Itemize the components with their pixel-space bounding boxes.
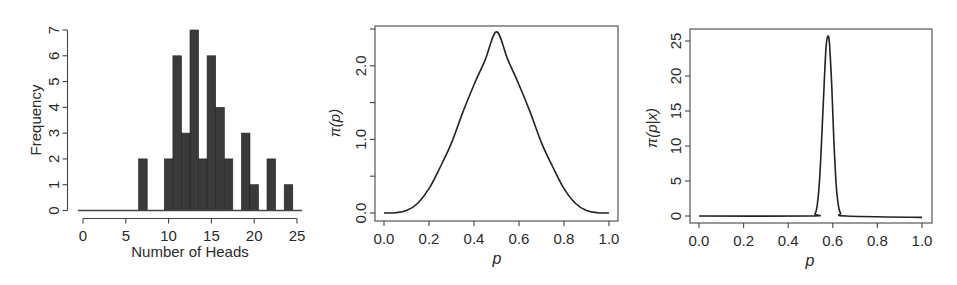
x-tick-label: 15	[203, 227, 220, 244]
x-tick-label: 10	[160, 227, 177, 244]
x-tick-label: 20	[246, 227, 263, 244]
y-tick-label: 2	[45, 155, 62, 163]
histogram-bar	[284, 185, 293, 211]
y-tick-label: 5	[667, 177, 684, 185]
prior-x-label: p	[492, 250, 502, 267]
y-tick-label: 1.0	[352, 129, 369, 150]
prior-density-curve	[384, 32, 609, 213]
x-tick-label: 0.0	[689, 232, 710, 249]
histogram-bar	[173, 56, 182, 211]
y-tick-label: 0.0	[352, 203, 369, 224]
posterior-x-label: p	[805, 252, 815, 269]
histogram-bar	[190, 30, 199, 211]
histogram-bar	[250, 185, 259, 211]
x-tick-label: 1.0	[599, 230, 620, 247]
histogram-bar	[164, 159, 173, 211]
y-tick-label: 0	[45, 206, 62, 214]
charts-canvas: 0510152025 01234567 Number of Heads Freq…	[0, 0, 957, 285]
y-tick-label: 4	[45, 103, 62, 111]
prior-x-axis: 0.00.20.40.60.81.0	[374, 221, 620, 247]
posterior-x-axis: 0.00.20.40.60.81.0	[689, 223, 933, 249]
x-tick-label: 0.4	[464, 230, 485, 247]
prior-density-plot: 0.00.20.40.60.81.0 0.01.02.0 p π(p)	[326, 26, 619, 267]
posterior-y-label: π(p|x)	[643, 108, 660, 148]
prior-y-axis: 0.01.02.0	[352, 29, 375, 223]
x-tick-label: 1.0	[912, 232, 933, 249]
posterior-plot-frame	[690, 29, 932, 223]
histogram-bar	[216, 107, 225, 210]
histogram-bar	[207, 56, 216, 211]
y-tick-label: 20	[667, 68, 684, 85]
figure-panel-row: 0510152025 01234567 Number of Heads Freq…	[0, 0, 957, 285]
x-tick-label: 0	[79, 227, 87, 244]
posterior-y-axis: 0510152025	[667, 33, 690, 221]
y-tick-label: 10	[667, 138, 684, 155]
histogram-y-axis: 01234567	[45, 26, 68, 215]
y-tick-label: 6	[45, 52, 62, 60]
y-tick-label: 3	[45, 129, 62, 137]
x-tick-label: 0.8	[554, 230, 575, 247]
histogram-bars	[139, 30, 293, 211]
histogram-bar	[224, 159, 233, 211]
x-tick-label: 5	[122, 227, 130, 244]
x-tick-label: 0.6	[822, 232, 843, 249]
x-tick-label: 0.2	[733, 232, 754, 249]
histogram-x-axis: 0510152025	[79, 219, 306, 245]
y-tick-label: 2.0	[352, 55, 369, 76]
y-tick-label: 0	[667, 212, 684, 220]
histogram-number-of-heads: 0510152025 01234567 Number of Heads Freq…	[27, 26, 305, 260]
histogram-bar	[181, 133, 190, 210]
histogram-bar	[199, 159, 208, 211]
posterior-density-plot: 0.00.20.40.60.81.0 0510152025 p π(p|x)	[643, 29, 932, 269]
posterior-density-curve	[699, 36, 922, 217]
y-tick-label: 7	[45, 26, 62, 34]
x-tick-label: 0.0	[374, 230, 395, 247]
histogram-bar	[241, 133, 250, 210]
y-tick-label: 25	[667, 33, 684, 50]
x-tick-label: 25	[289, 227, 306, 244]
y-tick-label: 1	[45, 181, 62, 189]
x-tick-label: 0.4	[778, 232, 799, 249]
x-tick-label: 0.6	[509, 230, 530, 247]
prior-plot-frame	[375, 26, 618, 221]
x-tick-label: 0.8	[867, 232, 888, 249]
histogram-bar	[267, 159, 276, 211]
histogram-bar	[139, 159, 148, 211]
y-tick-label: 15	[667, 103, 684, 120]
histogram-y-label: Frequency	[27, 84, 44, 155]
y-tick-label: 5	[45, 77, 62, 85]
prior-y-label: π(p)	[326, 109, 343, 137]
histogram-x-label: Number of Heads	[131, 243, 249, 260]
x-tick-label: 0.2	[419, 230, 440, 247]
